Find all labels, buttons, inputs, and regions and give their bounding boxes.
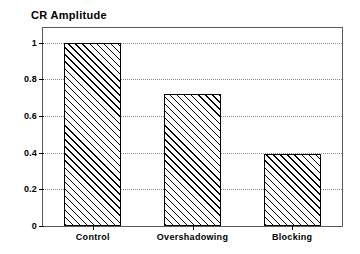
x-axis-tick-mark: [193, 225, 194, 230]
y-axis-tick-label: 0.8: [24, 74, 37, 84]
chart-title: CR Amplitude: [31, 9, 107, 21]
y-axis-tick-mark: [39, 116, 44, 117]
y-axis-tick-mark: [39, 79, 44, 80]
y-axis-tick-mark: [39, 153, 44, 154]
x-axis-tick-label: Overshadowing: [157, 232, 228, 242]
chart-figure: CR Amplitude 00.20.40.60.81ControlOversh…: [0, 0, 360, 254]
x-axis-tick-label: Blocking: [272, 232, 312, 242]
y-axis-tick-label: 1: [32, 38, 37, 48]
bar-control: [64, 43, 121, 226]
x-axis-tick-mark: [93, 225, 94, 230]
y-axis-tick-label: 0.6: [24, 111, 37, 121]
bar-blocking: [264, 154, 321, 226]
y-axis-tick-mark: [39, 226, 44, 227]
y-axis-tick-label: 0.2: [24, 184, 37, 194]
x-axis-tick-mark: [292, 225, 293, 230]
y-axis-tick-mark: [39, 43, 44, 44]
y-axis-tick-mark: [39, 189, 44, 190]
plot-area: 00.20.40.60.81ControlOvershadowingBlocki…: [42, 27, 343, 227]
y-axis-tick-label: 0: [32, 221, 37, 231]
x-axis-tick-label: Control: [76, 232, 110, 242]
bar-overshadowing: [164, 94, 221, 226]
y-axis-tick-label: 0.4: [24, 148, 37, 158]
